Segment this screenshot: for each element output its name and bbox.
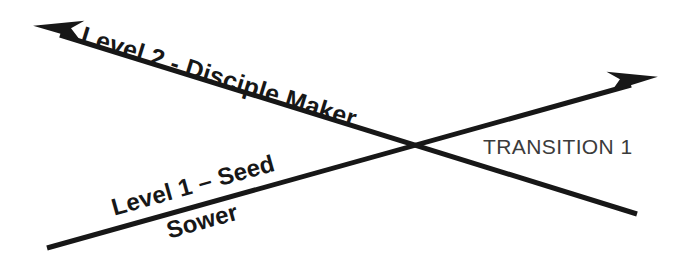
- level-one-arrowhead-icon: [607, 69, 659, 91]
- level-two-arrowhead-icon: [33, 18, 85, 39]
- diagram-canvas: Level 2 - Disciple Maker Level 1 – Seed …: [0, 0, 693, 272]
- level-one-arrow: [47, 69, 658, 248]
- transition-label: TRANSITION 1: [483, 136, 632, 157]
